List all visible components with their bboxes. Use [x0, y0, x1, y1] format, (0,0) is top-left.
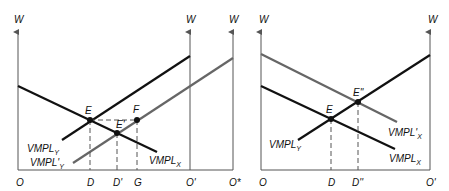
left-vmpl-y-prime-curve [73, 58, 233, 163]
mid-w-label: W [186, 14, 197, 25]
d-double-prime-label: D'' [352, 177, 364, 188]
left-vmpl-y-label: VMPLY [27, 143, 60, 156]
right-vmpl-x-label: VMPLX [389, 153, 421, 166]
left-panel: W W W E E' F VMPLY VMPL'Y VMPLX O D D' G… [14, 14, 242, 188]
right-point-e-dot [328, 116, 334, 122]
point-e-double-prime-dot [355, 99, 361, 105]
point-f-label: F [133, 104, 140, 115]
left-origin-o-star-label: O* [229, 177, 242, 188]
point-e-dot [87, 117, 93, 123]
d-label: D [87, 177, 94, 188]
point-e-prime-label: E' [116, 119, 126, 130]
right-vmpl-x-prime-label: VMPL'X [388, 127, 422, 140]
left-vmpl-x-label: VMPLX [149, 155, 181, 168]
g-label: G [134, 177, 142, 188]
right-panel-right-w-label: W [428, 14, 439, 25]
point-e-prime-dot [114, 130, 120, 136]
point-e-double-prime-label: E'' [353, 87, 365, 98]
left-origin-o-prime-label: O' [186, 177, 197, 188]
right-origin-o-prime-label: O' [426, 177, 437, 188]
left-origin-o-label: O [16, 177, 24, 188]
right-panel-left-w-label: W [259, 14, 270, 25]
right-panel: W W E E'' VMPLY VMPL'X VMPLX O D D'' O' [259, 14, 439, 188]
point-f-dot [134, 117, 140, 123]
left-w-label: W [14, 14, 25, 25]
labor-allocation-diagram: W W W E E' F VMPLY VMPL'Y VMPLX O D D' G… [0, 0, 449, 191]
right-point-e-label: E [326, 104, 333, 115]
right-origin-o-label: O [259, 177, 267, 188]
d-prime-label: D' [113, 177, 123, 188]
point-e-label: E [85, 105, 92, 116]
right-vmpl-y-label: VMPLY [269, 139, 302, 152]
left-vmpl-y-prime-label: VMPL'Y [30, 157, 65, 170]
right-w-label: W [229, 14, 240, 25]
right-d-label: D [328, 177, 335, 188]
